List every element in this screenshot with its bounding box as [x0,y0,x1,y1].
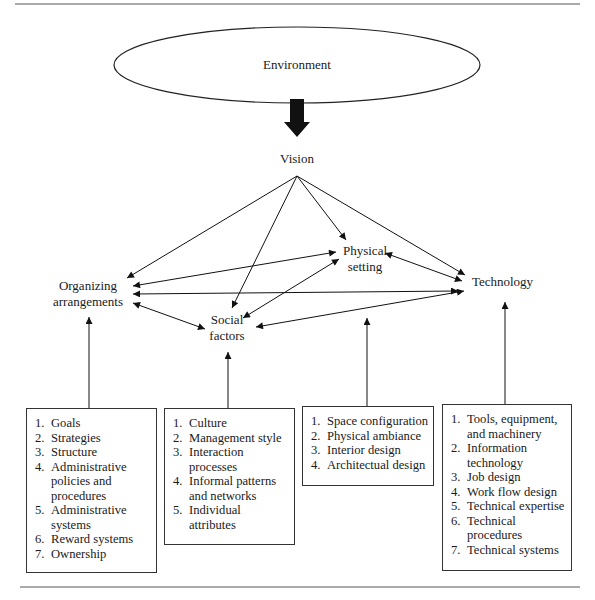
list-item: 2.Information technology [451,441,567,470]
organizing-line-1: Organizing [28,278,148,294]
list-item: 3.Job design [451,470,567,485]
physical-line-1: Physical [315,243,415,259]
social-factors-label: Social factors [187,312,267,344]
vision-label: Vision [257,151,337,167]
physical-setting-label: Physical setting [315,243,415,275]
box-arrows [89,302,505,408]
list-item: 3.Interaction processes [173,445,290,474]
list-item: 7.Ownership [35,547,152,562]
thick-down-arrow-icon [284,99,310,137]
list-item: 5.Technical expertise [451,499,567,514]
organizing-line-2: arrangements [28,294,148,310]
list-item: 2.Physical ambiance [311,429,429,444]
organizing-arrangements-box: 1.Goals 2.Strategies 3.Structure 4.Admin… [26,408,157,573]
technology-box: 1.Tools, equipment, and machinery 2.Info… [442,404,572,571]
list-item: 5.Individual attributes [173,503,290,532]
social-factors-box: 1.Culture 2.Management style 3.Interacti… [164,408,295,545]
physical-setting-box: 1.Space configuration 2.Physical ambianc… [302,406,434,486]
social-line-2: factors [187,328,267,344]
list-item: 2.Strategies [35,431,152,446]
list-item: 1.Goals [35,416,152,431]
list-item: 4.Work flow design [451,485,567,500]
list-item: 6.Reward systems [35,532,152,547]
list-item: 1.Space configuration [311,414,429,429]
list-item: 4.Architectual design [311,458,429,473]
vision-arrows [127,176,465,308]
list-item: 7.Technical systems [451,543,567,558]
environment-label: Environment [247,57,347,73]
list-item: 1.Culture [173,416,290,431]
list-item: 3.Interior design [311,443,429,458]
physical-line-2: setting [315,259,415,275]
list-item: 3.Structure [35,445,152,460]
list-item: 2.Management style [173,431,290,446]
social-line-1: Social [187,312,267,328]
organizing-arrangements-label: Organizing arrangements [28,278,148,310]
list-item: 1.Tools, equipment, and machinery [451,412,567,441]
technology-label: Technology [460,274,545,290]
list-item: 6.Technical procedures [451,514,567,543]
list-item: 4.Administrative policies and procedures [35,460,152,504]
list-item: 4.Informal patterns and networks [173,474,290,503]
list-item: 5.Administrative systems [35,503,152,532]
